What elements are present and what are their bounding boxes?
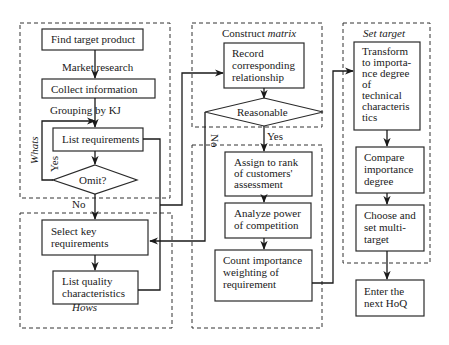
whats-label: Whats: [28, 137, 40, 165]
node-omit-decision: Omit?: [53, 165, 137, 194]
svg-text:requirements: requirements: [51, 237, 108, 249]
svg-text:Select key: Select key: [51, 225, 97, 237]
svg-text:requirement: requirement: [223, 278, 276, 290]
svg-text:Enter the: Enter the: [364, 285, 404, 297]
node-record-relationship: Record corresponding relationship: [224, 43, 304, 88]
svg-text:Choose and: Choose and: [364, 209, 416, 221]
svg-text:assessment: assessment: [234, 178, 283, 190]
svg-text:weighting of: weighting of: [223, 266, 279, 278]
node-compare-importance: Compare importance degree: [356, 147, 424, 193]
svg-text:Collect information: Collect information: [51, 83, 138, 95]
node-transform: Transform to importa- nce degree of tech…: [354, 42, 420, 130]
svg-text:Count importance: Count importance: [223, 254, 302, 266]
node-select-key: Select key requirements: [42, 220, 148, 255]
svg-text:set multi-: set multi-: [364, 221, 406, 233]
edge-label-market-research: Market research: [62, 61, 134, 73]
svg-text:Omit?: Omit?: [79, 174, 107, 186]
svg-text:Reasonable: Reasonable: [237, 106, 288, 118]
edge-label-no-reasonable: No: [209, 134, 221, 148]
node-choose-target: Choose and set multi- target: [356, 205, 424, 251]
svg-text:List requirements: List requirements: [62, 133, 139, 145]
node-collect-info: Collect information: [42, 79, 155, 98]
svg-text:importance: importance: [364, 163, 414, 175]
svg-text:next HoQ: next HoQ: [364, 297, 407, 309]
node-find-target: Find target product: [42, 29, 143, 50]
svg-text:target: target: [364, 233, 389, 245]
node-count-importance: Count importance weighting of requiremen…: [215, 250, 312, 301]
set-target-label: Set target: [363, 27, 406, 39]
svg-text:relationship: relationship: [232, 71, 284, 83]
construct-matrix-label: Construct matrix: [222, 27, 296, 39]
node-reasonable-decision: Reasonable: [205, 98, 323, 126]
edge-label-yes-reasonable: Yes: [267, 130, 283, 142]
edge-label-yes-omit: Yes: [48, 156, 60, 172]
svg-text:Find target product: Find target product: [51, 33, 135, 45]
svg-text:of competition: of competition: [234, 219, 299, 231]
svg-text:degree: degree: [364, 175, 393, 187]
edge-label-no-omit: No: [72, 198, 86, 210]
qfd-flowchart: Whats Hows Construct matrix Set target F…: [0, 0, 449, 345]
svg-text:characteristics: characteristics: [62, 287, 125, 299]
node-enter-next-hoq: Enter the next HoQ: [356, 280, 424, 316]
svg-text:Record: Record: [232, 47, 264, 59]
svg-text:Compare: Compare: [364, 151, 404, 163]
svg-text:corresponding: corresponding: [232, 59, 295, 71]
node-list-quality: List quality characteristics: [53, 271, 138, 304]
node-assign-rank: Assign to rank of customers' assessment: [225, 152, 312, 196]
node-list-requirements: List requirements: [53, 128, 143, 151]
svg-text:List quality: List quality: [62, 275, 113, 287]
svg-text:tics: tics: [362, 111, 377, 123]
node-analyze-power: Analyze power of competition: [225, 203, 311, 238]
edge-label-grouping-kj: Grouping by KJ: [50, 104, 122, 116]
svg-text:Analyze power: Analyze power: [234, 207, 301, 219]
